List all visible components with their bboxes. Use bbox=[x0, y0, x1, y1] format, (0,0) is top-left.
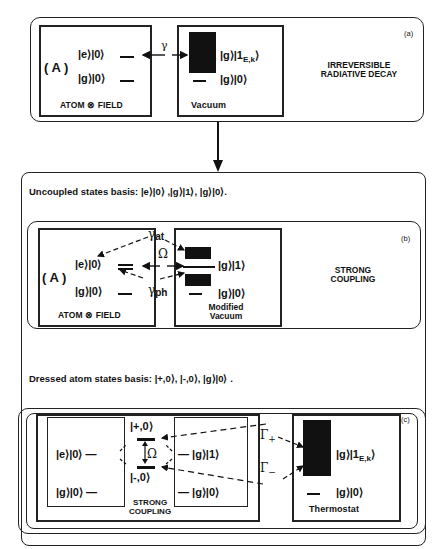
coupling-arrows bbox=[0, 0, 443, 549]
